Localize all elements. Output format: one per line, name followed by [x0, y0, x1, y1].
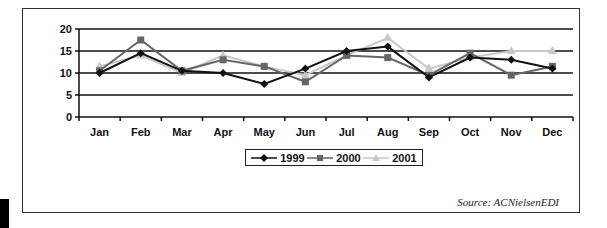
x-tick-label: Feb [131, 126, 151, 138]
legend-label: 2001 [392, 152, 416, 164]
data-point [260, 80, 268, 88]
x-tick-label: Jun [296, 126, 316, 138]
x-tick-label: Jul [339, 126, 355, 138]
chart-legend: 1999 2000 2001 [245, 149, 423, 166]
legend-label: 2000 [336, 152, 360, 164]
data-point [507, 56, 515, 64]
x-tick-label: Mar [172, 126, 192, 138]
diamond-marker-icon [251, 153, 277, 163]
data-point [261, 63, 268, 70]
y-tick-label: 20 [60, 23, 72, 35]
series-line-2000 [100, 40, 553, 82]
legend-item-1999: 1999 [251, 152, 304, 164]
source-caption: Source: ACNielsenEDI [457, 196, 559, 208]
x-tick-label: Oct [461, 126, 480, 138]
data-point [384, 54, 391, 61]
x-tick-label: Nov [501, 126, 523, 138]
y-tick-label: 10 [60, 67, 72, 79]
y-tick-label: 5 [66, 89, 72, 101]
data-point [508, 72, 515, 79]
triangle-marker-icon [363, 153, 389, 163]
x-tick-label: Dec [542, 126, 562, 138]
data-point [383, 33, 392, 41]
legend-label: 1999 [280, 152, 304, 164]
data-point [301, 65, 309, 73]
x-tick-label: Apr [214, 126, 234, 138]
y-tick-label: 0 [66, 111, 72, 123]
y-tick-label: 15 [60, 45, 72, 57]
data-point [220, 56, 227, 63]
data-point [137, 37, 144, 44]
x-tick-label: Aug [377, 126, 398, 138]
line-chart: 05101520JanFebMarAprMayJunJulAugSepOctNo… [0, 0, 607, 228]
x-tick-label: May [254, 126, 276, 138]
data-point [302, 78, 309, 85]
x-tick-label: Jan [90, 126, 109, 138]
legend-item-2001: 2001 [363, 152, 416, 164]
data-point [219, 69, 227, 77]
x-tick-label: Sep [419, 126, 439, 138]
square-marker-icon [307, 153, 333, 163]
legend-item-2000: 2000 [307, 152, 360, 164]
